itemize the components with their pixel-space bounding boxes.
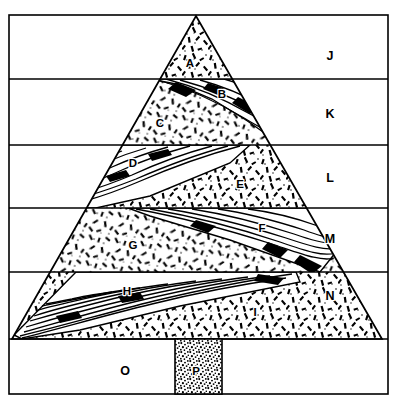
vent-label-P: P	[192, 365, 200, 377]
unit-label-C: C	[156, 117, 164, 129]
unit-label-F: F	[258, 222, 265, 234]
volcano-cross-section-figure: J K L M N O A B C D E F G H I P	[0, 0, 397, 408]
unit-label-H: H	[123, 285, 131, 297]
unit-label-E: E	[236, 178, 244, 190]
band-label-K: K	[325, 107, 334, 121]
unit-label-A: A	[186, 57, 194, 69]
unit-label-I: I	[253, 306, 256, 318]
unit-label-D: D	[129, 157, 137, 169]
band-label-M: M	[325, 232, 335, 246]
band-label-J: J	[327, 49, 334, 63]
band-label-O: O	[120, 364, 130, 378]
unit-label-G: G	[129, 239, 138, 251]
unit-label-B: B	[218, 88, 226, 100]
band-label-N: N	[325, 289, 334, 303]
band-label-L: L	[326, 171, 334, 185]
cross-section-canvas: J K L M N O A B C D E F G H I P	[0, 0, 397, 408]
